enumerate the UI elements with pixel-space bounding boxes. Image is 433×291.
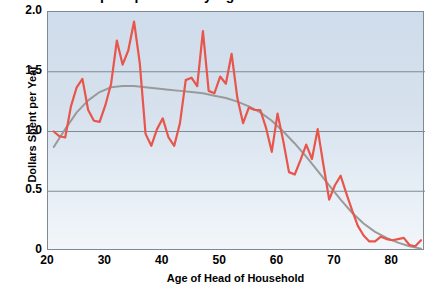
y-tick-label: 1.5 [0, 63, 42, 77]
x-tick-label: 70 [314, 253, 354, 267]
x-tick-label: 40 [142, 253, 182, 267]
x-tick-label: 80 [371, 253, 411, 267]
series-layer [54, 22, 421, 249]
chart-figure: Dollars Spent per Year by Age of Head of… [0, 0, 433, 291]
y-tick-label: 2.0 [0, 3, 42, 17]
chart-title: Dollars Spent per Year by Age of Head of… [0, 0, 433, 3]
data-line [54, 22, 421, 247]
x-tick-label: 30 [84, 253, 124, 267]
x-axis-title: Age of Head of Household [47, 272, 424, 284]
x-tick-label: 20 [27, 253, 67, 267]
trend-line [54, 86, 421, 249]
y-tick-label: 1.0 [0, 123, 42, 137]
x-tick-label: 50 [199, 253, 239, 267]
x-tick-label: 60 [257, 253, 297, 267]
y-tick-label: 0.5 [0, 182, 42, 196]
plot-area [47, 11, 424, 250]
plot-svg [48, 12, 425, 251]
